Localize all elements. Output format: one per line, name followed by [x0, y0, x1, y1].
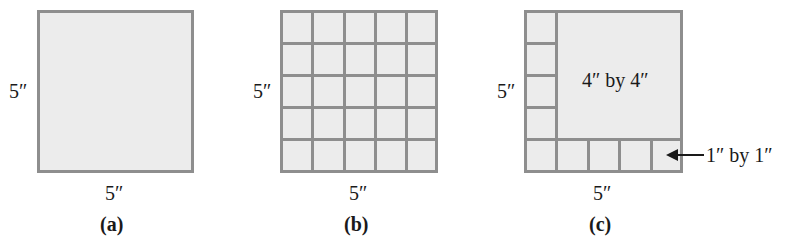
bottom-label: 5″ [105, 183, 123, 203]
grid-line [280, 106, 438, 109]
side-label: 5″ [9, 81, 27, 101]
square-decomposed [524, 10, 683, 173]
caption: (c) [589, 214, 611, 234]
grid-line [405, 10, 408, 173]
grid-line [524, 74, 557, 77]
side-label: 5″ [253, 81, 271, 101]
grid-line [618, 138, 621, 173]
arrow-left-icon [668, 154, 704, 156]
grid-line [524, 42, 557, 45]
grid-line [280, 138, 438, 141]
grid-line [524, 106, 557, 109]
divider-line [524, 138, 683, 141]
grid-line [280, 74, 438, 77]
grid-line [374, 10, 377, 173]
grid-line [587, 138, 590, 173]
grid-line [650, 138, 653, 173]
square-5x5 [37, 10, 194, 173]
inner-label: 4″ by 4″ [582, 70, 649, 90]
grid-line [555, 138, 558, 173]
caption: (b) [344, 214, 368, 234]
bottom-label: 5″ [593, 183, 611, 203]
grid-line [280, 42, 438, 45]
caption: (a) [100, 214, 123, 234]
side-label: 5″ [497, 81, 515, 101]
square-grid-5x5 [280, 10, 438, 173]
grid-line [311, 10, 314, 173]
bottom-label: 5″ [349, 183, 367, 203]
grid-line [343, 10, 346, 173]
callout-label: 1″ by 1″ [706, 145, 773, 165]
